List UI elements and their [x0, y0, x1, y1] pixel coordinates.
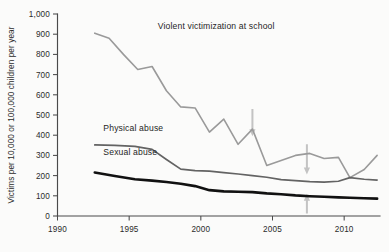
chart-axes	[58, 14, 381, 216]
y-tick-label: 400	[36, 131, 50, 140]
arrow-2007-down-icon	[304, 144, 310, 174]
y-tick-label: 0	[45, 212, 50, 221]
y-tick-label: 200	[36, 172, 50, 181]
y-tick-label: 100	[36, 192, 50, 201]
series-label-violent-victimization: Violent victimization at school	[158, 21, 275, 31]
y-axis-tick-labels: 01002003004005006007008009001,000	[29, 10, 51, 221]
series-line-sexual-abuse	[95, 173, 377, 199]
chart-container: 01002003004005006007008009001,000 199019…	[0, 0, 389, 252]
y-tick-label: 500	[36, 111, 50, 120]
x-tick-label: 1990	[48, 225, 67, 234]
y-tick-label: 900	[36, 30, 50, 39]
x-axis-tick-labels: 19901995200020052010	[48, 225, 354, 234]
series-label-sexual-abuse: Sexual abuse	[103, 147, 157, 157]
y-tick-label: 1,000	[29, 10, 51, 19]
x-tick-label: 2005	[263, 225, 282, 234]
series-inline-labels: Violent victimization at schoolPhysical …	[103, 21, 274, 157]
y-tick-label: 600	[36, 91, 50, 100]
y-tick-label: 700	[36, 71, 50, 80]
line-chart: 01002003004005006007008009001,000 199019…	[0, 0, 389, 252]
y-axis-title: Victims per 10,000 or 100,000 children p…	[7, 26, 16, 203]
series-label-physical-abuse: Physical abuse	[103, 123, 163, 133]
x-tick-label: 2010	[335, 225, 354, 234]
y-axis-title-text: Victims per 10,000 or 100,000 children p…	[7, 26, 16, 203]
y-tick-label: 800	[36, 50, 50, 59]
axis-tick-marks	[53, 14, 344, 221]
y-tick-label: 300	[36, 151, 50, 160]
x-tick-label: 2000	[191, 225, 210, 234]
x-tick-label: 1995	[120, 225, 139, 234]
data-series	[95, 33, 377, 198]
